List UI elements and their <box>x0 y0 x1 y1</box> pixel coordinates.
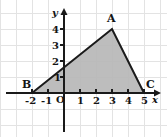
x-axis-label: x <box>152 95 158 105</box>
x-tick-label-2: 2 <box>93 96 100 106</box>
vertex-label-a: A <box>107 13 116 24</box>
vertex-label-b: B <box>22 79 31 90</box>
y-tick-label-1: 1 <box>54 73 61 83</box>
x-tick-label-1: 1 <box>77 96 84 106</box>
y-tick-label-4: 4 <box>52 25 59 35</box>
vertex-label-c: C <box>146 79 155 90</box>
y-tick-label-2: 2 <box>52 57 59 67</box>
y-axis-arrow <box>61 8 68 15</box>
x-tick-label-4: 4 <box>125 96 132 106</box>
y-axis-label: y <box>52 8 58 18</box>
x-tick-label-neg1: -1 <box>41 96 52 106</box>
x-tick-label-3: 3 <box>109 96 116 106</box>
x-tick-label-5: 5 <box>141 96 148 106</box>
plot-canvas <box>0 0 167 137</box>
origin-label: O <box>56 95 65 105</box>
y-tick-label-3: 3 <box>52 41 59 51</box>
x-tick-label-neg2: -2 <box>25 96 36 106</box>
coordinate-graph-figure: y x O -2 -1 1 2 3 4 5 1 2 3 4 A B C <box>0 0 167 137</box>
